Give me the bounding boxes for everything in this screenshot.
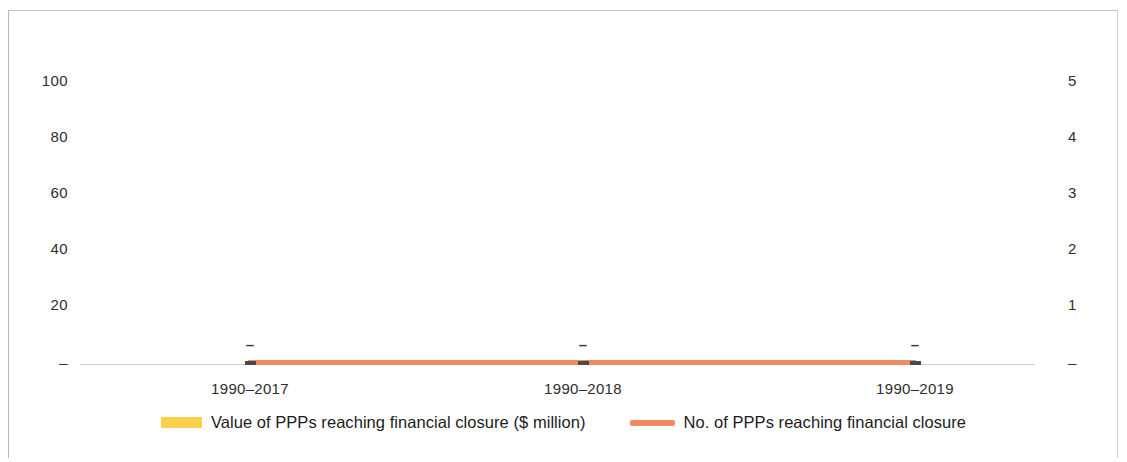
right-axis-tick-zero: – [1068, 354, 1077, 371]
right-axis-tick: 2 [1068, 240, 1077, 257]
line-point-marker [245, 361, 256, 365]
chart-legend: Value of PPPs reaching financial closure… [0, 413, 1127, 432]
right-axis-tick: 5 [1068, 72, 1077, 89]
left-y-axis: 100 80 60 40 20 – [0, 0, 68, 462]
bar-swatch-icon [161, 417, 202, 428]
left-axis-tick: 20 [0, 296, 68, 313]
right-axis-tick: 1 [1068, 296, 1077, 313]
right-y-axis: 5 4 3 2 1 – [1068, 0, 1108, 462]
legend-item-value-of-ppps[interactable]: Value of PPPs reaching financial closure… [161, 413, 586, 432]
data-label: – [230, 336, 270, 353]
category-label: 1990–2019 [815, 380, 1015, 397]
right-axis-tick: 3 [1068, 184, 1077, 201]
legend-label: No. of PPPs reaching financial closure [684, 413, 967, 432]
category-label: 1990–2017 [150, 380, 350, 397]
chart-figure: 100 80 60 40 20 – 5 4 3 2 1 – – – – 1990… [0, 0, 1127, 462]
line-swatch-icon [630, 420, 675, 426]
category-label: 1990–2018 [483, 380, 683, 397]
data-label: – [895, 336, 935, 353]
left-axis-tick: 80 [0, 128, 68, 145]
left-axis-tick: 60 [0, 184, 68, 201]
left-axis-tick: 100 [0, 72, 68, 89]
left-axis-tick: 40 [0, 240, 68, 257]
left-axis-tick-zero: – [0, 354, 68, 371]
data-label: – [563, 336, 603, 353]
legend-item-no-of-ppps[interactable]: No. of PPPs reaching financial closure [630, 413, 967, 432]
right-axis-tick: 4 [1068, 128, 1077, 145]
line-point-marker [578, 361, 589, 365]
line-point-marker [910, 361, 921, 365]
legend-label: Value of PPPs reaching financial closure… [211, 413, 586, 432]
